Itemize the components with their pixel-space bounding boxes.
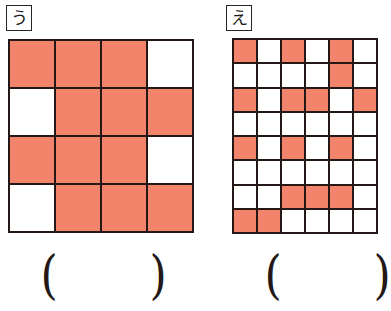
grid-cell[interactable] bbox=[354, 40, 378, 64]
grid-cell[interactable] bbox=[10, 137, 56, 185]
grid-cell[interactable] bbox=[330, 113, 354, 137]
grid-cell[interactable] bbox=[258, 64, 282, 88]
grid-cell[interactable] bbox=[306, 64, 330, 88]
grid-cell[interactable] bbox=[258, 186, 282, 210]
grid-cell[interactable] bbox=[148, 185, 194, 233]
grid-cell[interactable] bbox=[306, 89, 330, 113]
grid-cell[interactable] bbox=[306, 113, 330, 137]
grid-cell[interactable] bbox=[354, 64, 378, 88]
answer-open-paren-e: ( bbox=[265, 249, 282, 301]
grid-cell[interactable] bbox=[258, 137, 282, 161]
grid-cell[interactable] bbox=[330, 186, 354, 210]
grid-cell[interactable] bbox=[10, 89, 56, 137]
grid-cell[interactable] bbox=[282, 113, 306, 137]
grid-cell[interactable] bbox=[234, 40, 258, 64]
grid-cell[interactable] bbox=[330, 161, 354, 185]
grid-cell[interactable] bbox=[354, 186, 378, 210]
grid-cell[interactable] bbox=[234, 64, 258, 88]
grid-cell[interactable] bbox=[148, 89, 194, 137]
fraction-grid-u[interactable] bbox=[8, 39, 194, 233]
grid-cell[interactable] bbox=[306, 186, 330, 210]
grid-cell[interactable] bbox=[148, 41, 194, 89]
problem-label-e: え bbox=[226, 5, 252, 31]
grid-cell[interactable] bbox=[234, 113, 258, 137]
grid-cell[interactable] bbox=[102, 185, 148, 233]
answer-close-paren-e: ) bbox=[374, 249, 391, 301]
grid-cell[interactable] bbox=[10, 185, 56, 233]
grid-cell[interactable] bbox=[330, 89, 354, 113]
grid-cell[interactable] bbox=[282, 40, 306, 64]
grid-cell[interactable] bbox=[282, 210, 306, 234]
grid-cell[interactable] bbox=[306, 161, 330, 185]
grid-cell[interactable] bbox=[234, 137, 258, 161]
grid-cell[interactable] bbox=[330, 210, 354, 234]
grid-cell[interactable] bbox=[354, 137, 378, 161]
grid-cell[interactable] bbox=[258, 210, 282, 234]
grid-cell[interactable] bbox=[102, 41, 148, 89]
grid-cell[interactable] bbox=[258, 113, 282, 137]
grid-cell[interactable] bbox=[102, 137, 148, 185]
grid-cell[interactable] bbox=[258, 40, 282, 64]
grid-cell[interactable] bbox=[56, 137, 102, 185]
grid-cell[interactable] bbox=[56, 89, 102, 137]
grid-cell[interactable] bbox=[258, 89, 282, 113]
grid-cell[interactable] bbox=[282, 89, 306, 113]
answer-open-paren-u: ( bbox=[41, 249, 58, 301]
grid-cell[interactable] bbox=[354, 89, 378, 113]
grid-cell[interactable] bbox=[330, 40, 354, 64]
grid-cell[interactable] bbox=[10, 41, 56, 89]
grid-cell[interactable] bbox=[354, 210, 378, 234]
grid-cell[interactable] bbox=[234, 210, 258, 234]
problem-label-u: う bbox=[6, 5, 32, 31]
grid-cell[interactable] bbox=[282, 64, 306, 88]
grid-cell[interactable] bbox=[330, 64, 354, 88]
answer-close-paren-u: ) bbox=[150, 249, 167, 301]
grid-cell[interactable] bbox=[56, 185, 102, 233]
grid-cell[interactable] bbox=[306, 40, 330, 64]
grid-cell[interactable] bbox=[330, 137, 354, 161]
grid-cell[interactable] bbox=[282, 137, 306, 161]
grid-cell[interactable] bbox=[234, 161, 258, 185]
grid-cell[interactable] bbox=[234, 186, 258, 210]
fraction-grid-e[interactable] bbox=[232, 38, 378, 234]
grid-cell[interactable] bbox=[282, 186, 306, 210]
grid-cell[interactable] bbox=[306, 210, 330, 234]
grid-cell[interactable] bbox=[282, 161, 306, 185]
grid-cell[interactable] bbox=[56, 41, 102, 89]
grid-cell[interactable] bbox=[306, 137, 330, 161]
grid-cell[interactable] bbox=[148, 137, 194, 185]
grid-cell[interactable] bbox=[354, 113, 378, 137]
grid-cell[interactable] bbox=[234, 89, 258, 113]
grid-cell[interactable] bbox=[354, 161, 378, 185]
grid-cell[interactable] bbox=[258, 161, 282, 185]
grid-cell[interactable] bbox=[102, 89, 148, 137]
